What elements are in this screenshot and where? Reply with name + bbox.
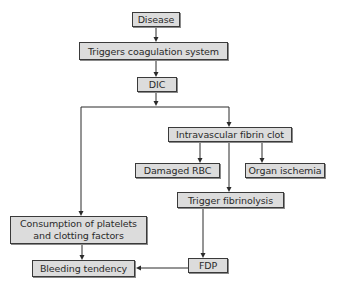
flowchart-canvas: Disease Triggers coagulation system DIC …	[0, 0, 340, 285]
node-disease: Disease	[132, 12, 180, 27]
node-bleeding-tendency: Bleeding tendency	[32, 260, 135, 277]
node-intravascular-fibrin-clot: Intravascular fibrin clot	[168, 127, 292, 142]
node-organ-ischemia: Organ ischemia	[245, 163, 325, 178]
node-label: Organ ischemia	[248, 165, 321, 176]
node-label: Triggers coagulation system	[88, 46, 219, 57]
node-label: Bleeding tendency	[40, 263, 127, 274]
node-fdp: FDP	[188, 258, 228, 273]
node-triggers-coagulation: Triggers coagulation system	[79, 42, 228, 60]
arrowhead-icon	[154, 101, 159, 106]
node-damaged-rbc: Damaged RBC	[135, 163, 220, 178]
node-trigger-fibrinolysis: Trigger fibrinolysis	[177, 192, 284, 208]
node-label-line2: and clotting factors	[33, 230, 124, 242]
node-label: Trigger fibrinolysis	[188, 195, 273, 206]
arrowhead-icon	[136, 266, 141, 271]
node-label: Disease	[138, 14, 175, 25]
node-consumption-platelets: Consumption of platelets and clotting fa…	[10, 216, 147, 244]
node-label: Intravascular fibrin clot	[176, 129, 284, 140]
node-label: Damaged RBC	[144, 165, 212, 176]
node-label: FDP	[199, 260, 217, 271]
node-label-line1: Consumption of platelets	[20, 218, 137, 230]
node-dic: DIC	[137, 77, 177, 92]
node-label: DIC	[149, 79, 165, 90]
